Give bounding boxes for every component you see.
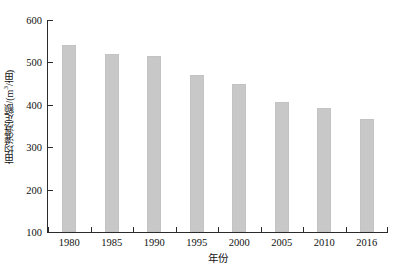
y-axis-tick-label: 500 bbox=[26, 57, 42, 68]
bar bbox=[62, 45, 76, 232]
y-axis-tick bbox=[48, 20, 53, 21]
y-axis-title-suffix: /亩) bbox=[4, 70, 15, 86]
y-axis-tick bbox=[48, 232, 53, 233]
x-axis-tick bbox=[218, 227, 219, 232]
y-axis-title-text: 亩均灌溉定额/(m3/亩) bbox=[3, 70, 15, 164]
x-axis-tick-label: 1990 bbox=[144, 237, 165, 248]
y-axis-tick-label: 100 bbox=[26, 227, 42, 238]
bar bbox=[232, 84, 246, 232]
y-axis-tick-label: 300 bbox=[26, 142, 42, 153]
y-axis-tick bbox=[48, 190, 53, 191]
x-axis-tick-label: 2010 bbox=[314, 237, 335, 248]
x-axis-tick bbox=[261, 227, 262, 232]
bar bbox=[317, 108, 331, 232]
x-axis-title: 年份 bbox=[47, 250, 388, 265]
x-axis-tick bbox=[387, 227, 388, 232]
bar bbox=[360, 119, 374, 232]
x-axis-tick bbox=[176, 227, 177, 232]
x-axis-tick bbox=[133, 227, 134, 232]
x-axis-tick-label: 1985 bbox=[101, 237, 122, 248]
plot-area: 1002003004005006001980198519901995200020… bbox=[47, 20, 388, 233]
y-axis-tick bbox=[48, 62, 53, 63]
x-axis-tick bbox=[346, 227, 347, 232]
y-axis-tick bbox=[48, 147, 53, 148]
bar bbox=[147, 56, 161, 232]
x-axis-tick-label: 1980 bbox=[59, 237, 80, 248]
y-axis-tick bbox=[48, 105, 53, 106]
y-axis-title-prefix: 亩均灌溉定额/(m bbox=[4, 89, 15, 163]
x-axis-tick bbox=[48, 227, 49, 232]
x-axis-tick-label: 2016 bbox=[356, 237, 377, 248]
bar bbox=[190, 75, 204, 232]
x-axis-tick-label: 1995 bbox=[186, 237, 207, 248]
y-axis-tick-label: 400 bbox=[26, 99, 42, 110]
y-axis-tick-label: 200 bbox=[26, 184, 42, 195]
bar-chart-figure: 亩均灌溉定额/(m3/亩) 10020030040050060019801985… bbox=[0, 0, 405, 273]
bar bbox=[275, 102, 289, 232]
x-axis-tick-label: 2000 bbox=[229, 237, 250, 248]
x-axis-tick bbox=[303, 227, 304, 232]
y-axis-title: 亩均灌溉定额/(m3/亩) bbox=[0, 0, 18, 233]
x-axis-tick-label: 2005 bbox=[271, 237, 292, 248]
x-axis-tick bbox=[91, 227, 92, 232]
y-axis-tick-label: 600 bbox=[26, 15, 42, 26]
bar bbox=[105, 54, 119, 232]
